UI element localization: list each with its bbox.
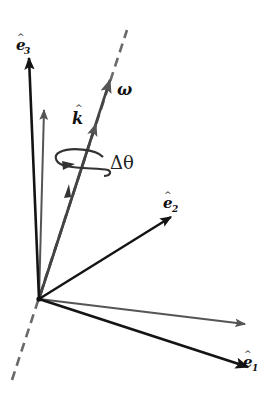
rotated-e1-arrow bbox=[39, 299, 245, 324]
svg-text:3: 3 bbox=[24, 46, 30, 56]
e1-arrow bbox=[39, 299, 248, 367]
e2-label: e 2 ^ bbox=[163, 190, 178, 214]
rotation-arrowhead-icon bbox=[62, 161, 75, 170]
svg-text:^: ^ bbox=[244, 349, 252, 359]
e3-label: e 3 ^ bbox=[16, 32, 30, 56]
svg-text:^: ^ bbox=[75, 103, 83, 113]
k-hat-label: k ^ bbox=[72, 103, 83, 128]
svg-text:^: ^ bbox=[17, 32, 25, 42]
e1-label: e 1 ^ bbox=[243, 349, 258, 373]
rotation-diagram: e 3 ^ e 2 ^ e 1 ^ k ^ ω Δθ bbox=[0, 0, 273, 398]
omega-label: ω bbox=[117, 80, 132, 99]
svg-text:1: 1 bbox=[252, 363, 258, 373]
e2-arrow bbox=[39, 217, 171, 299]
origin-point bbox=[36, 296, 41, 301]
delta-theta-label: Δθ bbox=[110, 152, 134, 173]
rotated-e3-arrow bbox=[39, 110, 44, 299]
e3-arrow bbox=[29, 58, 39, 299]
axis-small-arrowhead-icon bbox=[64, 184, 71, 198]
svg-text:^: ^ bbox=[164, 190, 172, 200]
svg-text:2: 2 bbox=[171, 204, 178, 214]
